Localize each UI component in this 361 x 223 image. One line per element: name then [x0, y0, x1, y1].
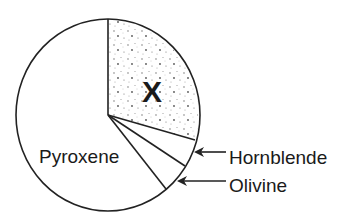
- pie-chart: X Pyroxene Hornblende Olivine: [0, 0, 361, 223]
- arrow-olivine: [177, 176, 226, 186]
- label-olivine: Olivine: [229, 175, 287, 196]
- label-x: X: [142, 75, 162, 108]
- label-pyroxene: Pyroxene: [39, 146, 119, 167]
- label-hornblende: Hornblende: [229, 147, 327, 168]
- arrow-hornblende: [194, 147, 226, 157]
